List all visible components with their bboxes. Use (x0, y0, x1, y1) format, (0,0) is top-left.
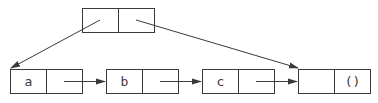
nil-label: () (345, 74, 361, 89)
car-label: c (217, 74, 225, 89)
head-cdr-pointer-arrow (136, 20, 298, 68)
head-car-pointer-arrow (11, 20, 100, 68)
cons-cell-diagram: a b c () (0, 0, 378, 103)
cons-cell-nil: () (299, 70, 371, 94)
car-label: a (25, 74, 33, 89)
car-label: b (121, 74, 129, 89)
head-cons-cell (83, 9, 155, 33)
